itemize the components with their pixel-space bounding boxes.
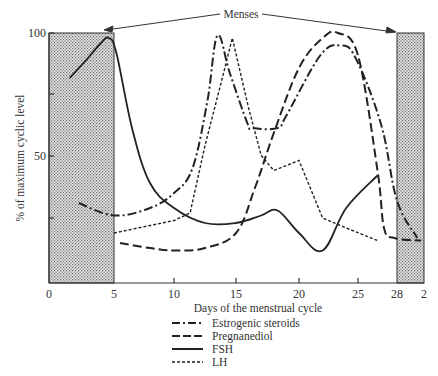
y-tick-100: 100: [28, 26, 46, 40]
menstrual-hormone-chart: 100 50 0 5 10 15 20 25 28 2 % of maximum…: [0, 0, 438, 376]
svg-text:28: 28: [391, 287, 403, 301]
svg-text:10: 10: [168, 287, 180, 301]
legend-item-estrogenic: Estrogenic steroids: [172, 317, 300, 330]
legend-item-pregnanediol: Pregnanediol: [172, 330, 273, 343]
legend: Estrogenic steroids Pregnanediol FSH LH: [172, 317, 300, 368]
svg-text:2: 2: [421, 287, 427, 301]
menses-region-start: [49, 33, 114, 283]
y-axis-title: % of maximum cyclic level: [14, 94, 27, 221]
svg-text:LH: LH: [212, 356, 227, 368]
x-axis-title: Days of the menstrual cycle: [194, 302, 322, 315]
series-layer: [70, 32, 422, 252]
svg-text:Estrogenic steroids: Estrogenic steroids: [212, 317, 300, 330]
menses-label: Menses: [223, 8, 259, 20]
y-tick-50: 50: [34, 149, 46, 163]
menses-region-end: [397, 33, 424, 283]
svg-text:Pregnanediol: Pregnanediol: [212, 330, 273, 343]
svg-text:20: 20: [293, 287, 305, 301]
svg-text:15: 15: [230, 287, 242, 301]
series-line-fsh: [70, 37, 378, 251]
svg-text:25: 25: [352, 287, 364, 301]
svg-text:FSH: FSH: [212, 343, 233, 355]
legend-item-fsh: FSH: [172, 343, 233, 355]
series-line-lh: [114, 38, 378, 241]
legend-item-lh: LH: [172, 356, 227, 368]
x-tick-labels: 0 5 10 15 20 25 28 2: [46, 287, 427, 301]
svg-text:5: 5: [111, 287, 117, 301]
series-line-pregnanediol: [120, 32, 421, 251]
svg-text:0: 0: [46, 287, 52, 301]
